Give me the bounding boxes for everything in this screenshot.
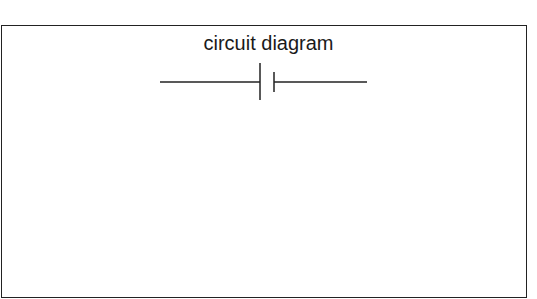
battery-cell-icon — [0, 0, 537, 299]
